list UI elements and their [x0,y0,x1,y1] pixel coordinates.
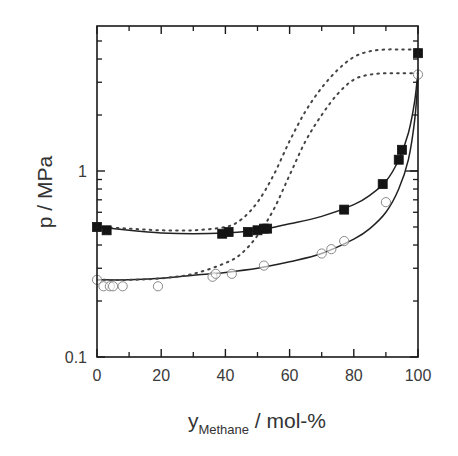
y-tick-label: 0.1 [65,349,87,366]
open-circle-marker [118,282,127,291]
model-curves [97,49,418,280]
x-axis-title: yMethane / mol-% [188,409,326,437]
open-circle-marker [340,236,349,245]
plot-frame [97,26,418,357]
solid-model-curve [97,70,418,234]
filled-square-marker [224,227,233,236]
axis-ticks [97,26,418,357]
open-circle-marker [211,269,220,278]
filled-square-marker [397,145,406,154]
y-axis-title: p / MPa [33,156,56,229]
open-circle-marker [327,245,336,254]
open-circle-marker [108,282,117,291]
chart: 0204060801000.11 p / MPa yMethane / mol-… [0,0,458,456]
filled-square-marker [263,224,272,233]
solid-model-curve [97,77,418,280]
x-tick-label: 40 [217,367,235,384]
dotted-model-curve [97,49,418,230]
open-circle-marker [381,198,390,207]
filled-square-marker [378,180,387,189]
open-circle-marker [153,282,162,291]
x-tick-label: 100 [405,367,432,384]
x-tick-label: 60 [281,367,299,384]
open-circle-marker [259,261,268,270]
x-axis-title-subscript: Methane [198,422,249,437]
open-circle-marker [317,249,326,258]
y-tick-label: 1 [78,163,87,180]
x-tick-label: 20 [152,367,170,384]
tick-labels: 0204060801000.11 [65,163,432,384]
plot-border [97,26,418,357]
open-circle-marker [227,269,236,278]
x-tick-label: 0 [93,367,102,384]
x-tick-label: 80 [345,367,363,384]
dotted-model-curve [97,73,418,280]
x-axis-title-main: y [188,409,199,432]
filled-square-marker [102,226,111,235]
filled-square-marker [394,155,403,164]
filled-square-marker [243,227,252,236]
data-markers [92,49,422,291]
x-axis-title-unit: / mol-% [249,409,326,432]
filled-square-marker [340,205,349,214]
